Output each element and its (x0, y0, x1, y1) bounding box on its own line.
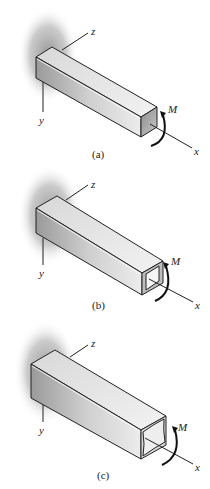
panel-c: z y x M (c) (14, 320, 200, 482)
panel-caption-b: (b) (92, 299, 105, 312)
moment-label: M (167, 103, 178, 115)
figure-canvas: z y x M (a) z y x M (b) (0, 0, 210, 489)
y-axis-label: y (38, 114, 44, 126)
moment-label: M (177, 421, 188, 433)
y-axis-label: y (38, 267, 44, 279)
y-axis-label: y (38, 424, 44, 436)
panel-a: z y x M (a) (18, 7, 199, 161)
panel-caption-a: (a) (92, 148, 105, 161)
panel-b: z y x M (b) (18, 165, 200, 312)
x-axis-label: x (193, 145, 199, 157)
x-axis-label: x (194, 299, 200, 311)
z-axis-label: z (90, 25, 96, 37)
z-axis-label: z (90, 337, 96, 349)
moment-label: M (170, 255, 181, 267)
panel-caption-c: (c) (97, 469, 110, 482)
z-axis-label: z (90, 178, 96, 190)
x-axis-label: x (194, 461, 200, 473)
x-axis (149, 279, 193, 302)
